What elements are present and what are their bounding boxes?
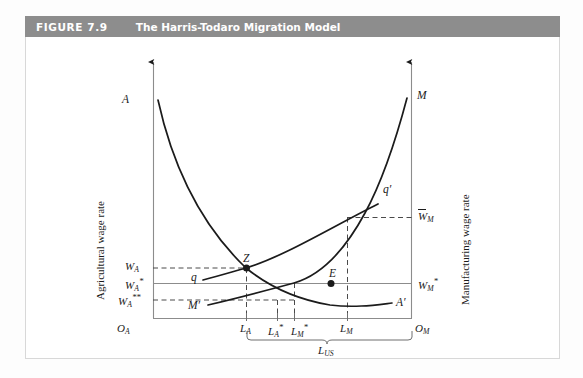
curve-label-M-prime: M′ [188, 299, 200, 311]
wmstar-sup: * [434, 276, 438, 286]
wastar-base: W [125, 279, 134, 291]
brace-label-LUS: LUS [318, 344, 334, 358]
y-tick-label-WMstar: WM* [418, 276, 438, 293]
point-E-marker [328, 280, 335, 287]
curve-label-A: A [122, 93, 129, 105]
wa-sub: A [134, 265, 139, 274]
y-tick-label-WAdoublestar: WA** [118, 292, 141, 309]
right-axis-title: Manufacturing wage rate [459, 194, 471, 305]
oa-base: O [117, 322, 125, 334]
x-tick-label-LM: LM [340, 322, 353, 336]
curve-manufacturing-demand [208, 98, 407, 305]
figure-page: FIGURE 7.9 The Harris-Todaro Migration M… [0, 0, 583, 378]
y-tick-label-WbarM: WM [418, 210, 434, 224]
wbarm-base: W [418, 210, 427, 222]
curve-label-q: q [191, 271, 197, 283]
om-sub: M [423, 327, 429, 336]
lus-sub: US [324, 349, 333, 358]
origin-label-OM: OM [415, 322, 429, 336]
wmstar-base: W [418, 279, 427, 291]
la-sub: A [246, 327, 251, 336]
wadstar-sup: ** [132, 292, 141, 302]
curve-label-M: M [417, 89, 427, 101]
x-tick-label-LMstar: LM* [291, 322, 308, 339]
curve-qq-locus [203, 204, 378, 280]
left-axis-title: Agricultural wage rate [94, 201, 106, 300]
point-Z-marker [243, 265, 250, 272]
curve-label-q-prime: q′ [383, 183, 391, 195]
x-tick-label-LAstar: LA* [268, 322, 283, 339]
point-label-Z: Z [243, 252, 249, 264]
wastar-sup: * [139, 276, 143, 286]
om-base: O [415, 322, 423, 334]
origin-label-OA: OA [117, 322, 130, 336]
lastar-sup: * [279, 322, 283, 332]
y-tick-label-WA: WA [125, 260, 139, 274]
oa-sub: A [125, 327, 130, 336]
wbarm-sub: M [427, 215, 433, 224]
curve-label-A-prime: A′ [396, 296, 406, 308]
point-label-E: E [329, 267, 336, 279]
y-tick-label-WAstar: WA* [125, 276, 143, 293]
wa-base: W [125, 260, 134, 272]
x-tick-label-LA: LA [240, 322, 251, 336]
wadstar-base: W [118, 295, 127, 307]
lm-sub: M [346, 327, 352, 336]
lmstar-sup: * [304, 322, 308, 332]
